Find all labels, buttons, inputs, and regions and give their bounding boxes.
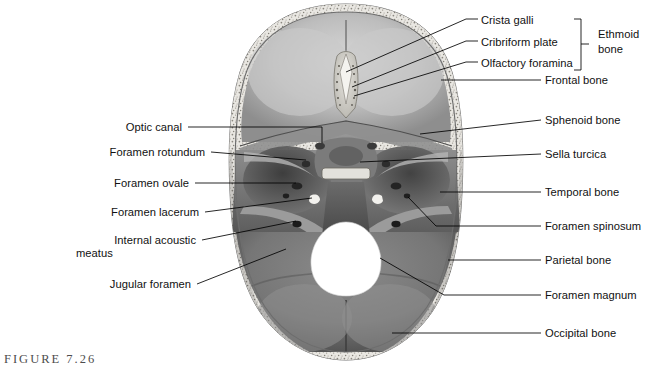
hypophyseal-fossa	[329, 146, 363, 166]
label-sphenoid-bone: Sphenoid bone	[545, 114, 621, 127]
label-occipital-bone: Occipital bone	[545, 327, 616, 340]
skull-base-drawing	[229, 4, 464, 360]
optic-canal-right	[367, 143, 377, 150]
dorsum-sellae	[322, 168, 370, 179]
label-cribriform-plate: Cribriform plate	[481, 36, 558, 49]
label-olfactory-foramina: Olfactory foramina	[481, 57, 573, 70]
label-internal-acoustic: Internal acoustic	[76, 234, 196, 247]
label-jugular-foramen: Jugular foramen	[76, 278, 191, 291]
foramen-rotundum-right	[382, 161, 390, 167]
label-crista-galli: Crista galli	[481, 14, 533, 27]
label-frontal-bone: Frontal bone	[545, 74, 608, 87]
label-foramen-magnum: Foramen magnum	[545, 289, 637, 302]
label-internal-acoustic-meatus-line2: meatus	[76, 247, 146, 260]
label-foramen-rotundum: Foramen rotundum	[75, 146, 205, 159]
foramen-rotundum-left	[302, 161, 310, 167]
label-optic-canal: Optic canal	[82, 121, 182, 134]
foramen-ovale-left	[292, 182, 303, 189]
ethmoid-bracket	[574, 19, 589, 70]
label-foramen-lacerum: Foramen lacerum	[79, 206, 199, 219]
optic-canal-left	[315, 143, 325, 150]
label-ethmoid-bone-line1: Ethmoid	[598, 28, 639, 41]
label-foramen-spinosum: Foramen spinosum	[545, 220, 641, 233]
label-sella-turcica: Sella turcica	[545, 148, 606, 161]
foramen-spinosum-left	[283, 194, 289, 199]
label-foramen-ovale: Foramen ovale	[79, 177, 189, 190]
foramen-ovale-right	[391, 182, 402, 189]
label-temporal-bone: Temporal bone	[545, 186, 619, 199]
bracket-shape	[574, 19, 581, 70]
figure-container: Crista galli Cribriform plate Olfactory …	[0, 0, 646, 375]
label-parietal-bone: Parietal bone	[545, 254, 611, 267]
internal-acoustic-meatus-right	[391, 221, 400, 227]
label-ethmoid-bone-line2: bone	[598, 43, 623, 56]
figure-caption: FIGURE 7.26	[4, 352, 96, 367]
